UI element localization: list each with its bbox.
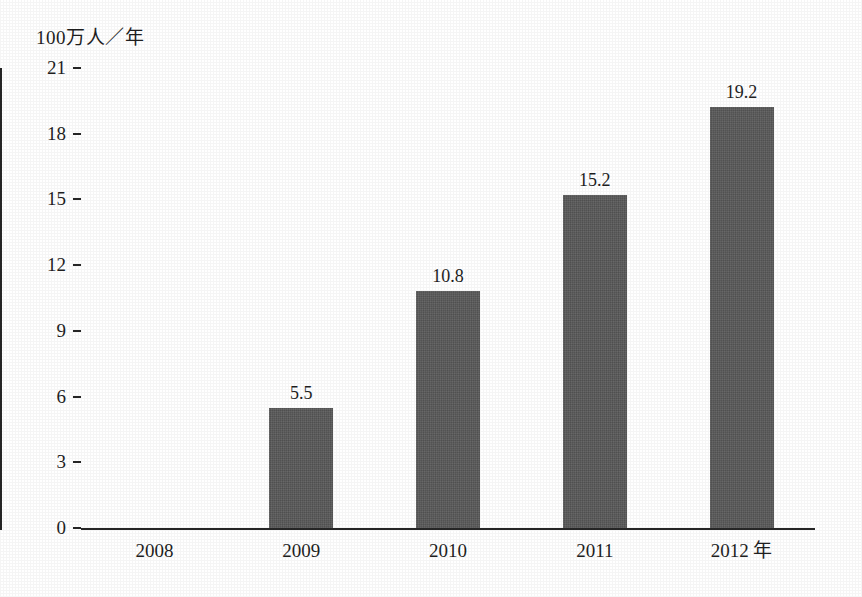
y-axis-line [0, 68, 2, 530]
y-tick-mark: 0 [73, 527, 81, 529]
x-tick-label-2011: 2011 [576, 540, 613, 562]
bar-value-label: 15.2 [579, 171, 611, 189]
y-tick-label: 0 [57, 518, 67, 537]
y-tick-label: 15 [47, 190, 66, 209]
y-tick-label: 9 [57, 321, 67, 340]
y-tick-label: 6 [57, 387, 67, 406]
y-tick-mark: 9 [73, 330, 81, 332]
x-tick-label-2008: 2008 [135, 540, 173, 562]
bar-value-label: 5.5 [290, 384, 313, 402]
y-tick-mark: 3 [73, 461, 81, 463]
bar-2011[interactable]: 15.2 [563, 195, 627, 528]
y-tick-mark: 12 [73, 264, 81, 266]
bar-value-label: 10.8 [432, 267, 464, 285]
plot-area: 036912151821 5.510.815.219.2 [81, 68, 815, 528]
y-tick-mark: 6 [73, 396, 81, 398]
y-tick-label: 18 [47, 124, 66, 143]
y-tick-mark: 18 [73, 133, 81, 135]
bar-2009[interactable]: 5.5 [269, 408, 333, 528]
y-tick-label: 21 [47, 58, 66, 77]
y-tick-label: 12 [47, 255, 66, 274]
bar-2012[interactable]: 19.2 [710, 107, 774, 528]
x-axis-line [81, 528, 815, 530]
y-axis-unit-label: 100万人／年 [36, 27, 144, 49]
x-tick-label-2010: 2010 [429, 540, 467, 562]
bar-chart-figure: 100万人／年 036912151821 5.510.815.219.2 200… [0, 0, 862, 597]
bar-2010[interactable]: 10.8 [416, 291, 480, 528]
x-tick-label-2009: 2009 [282, 540, 320, 562]
y-tick-mark: 15 [73, 198, 81, 200]
y-tick-label: 3 [57, 452, 67, 471]
y-tick-mark: 21 [73, 67, 81, 69]
x-tick-label-2012: 2012 年 [711, 540, 773, 562]
bar-value-label: 19.2 [726, 83, 758, 101]
